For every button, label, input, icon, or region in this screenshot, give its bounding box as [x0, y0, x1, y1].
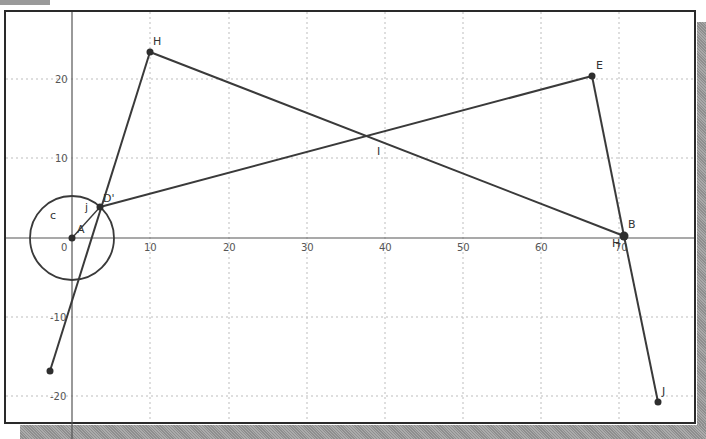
y-tick-neg20: -20	[50, 391, 66, 402]
segment-e-b[interactable]	[592, 76, 624, 236]
segment-h-b[interactable]	[150, 52, 624, 236]
label-b-sub: H	[612, 237, 620, 250]
x-tick-50: 50	[457, 242, 470, 253]
point-j[interactable]	[655, 399, 662, 406]
label-a: A	[77, 223, 85, 236]
x-tick-30: 30	[301, 242, 314, 253]
point-a[interactable]	[69, 235, 76, 242]
x-tick-0: 0	[61, 242, 67, 253]
x-tick-60: 60	[535, 242, 548, 253]
y-tick-10: 10	[55, 153, 68, 164]
y-tick-neg10: -10	[50, 312, 66, 323]
segments	[50, 52, 658, 402]
label-j-point: J	[661, 385, 665, 398]
point-h[interactable]	[147, 49, 154, 56]
x-tick-40: 40	[379, 242, 392, 253]
point-p[interactable]	[47, 368, 54, 375]
x-tick-20: 20	[223, 242, 236, 253]
y-tick-20: 20	[55, 74, 68, 85]
label-circle-c: c	[50, 209, 56, 222]
label-h: H	[153, 35, 161, 48]
point-b[interactable]	[620, 232, 629, 241]
label-i: I	[377, 145, 380, 158]
segment-b-j[interactable]	[624, 236, 658, 402]
point-e[interactable]	[589, 73, 596, 80]
label-b: B	[628, 218, 636, 231]
label-d-prime: D'	[103, 192, 115, 205]
segment-p-h[interactable]	[50, 52, 150, 371]
points	[47, 49, 662, 406]
x-tick-labels: 0 10 20 30 40 50 60 70	[61, 242, 628, 253]
x-tick-10: 10	[144, 242, 157, 253]
segment-d-e[interactable]	[100, 76, 592, 207]
geometry-canvas[interactable]: 0 10 20 30 40 50 60 70 20 10 -10 -20 H E	[0, 0, 706, 439]
label-e: E	[596, 59, 603, 72]
label-segment-j: j	[84, 201, 88, 214]
